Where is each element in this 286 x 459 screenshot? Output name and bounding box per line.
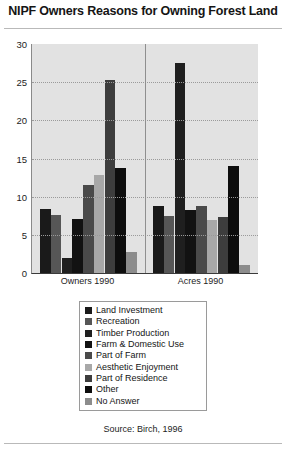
bar (153, 206, 164, 273)
legend-item[interactable]: Other (85, 384, 202, 395)
y-axis-tick-label: 5 (0, 229, 27, 240)
bar (228, 166, 239, 273)
legend-swatch-icon (85, 352, 92, 359)
legend-swatch-icon (85, 398, 92, 405)
y-axis-tick-label: 20 (0, 115, 27, 126)
bar (40, 209, 51, 273)
x-axis-category-label: Acres 1990 (178, 276, 224, 286)
legend-swatch-icon (85, 307, 92, 314)
bar (207, 220, 218, 273)
legend-item[interactable]: Part of Farm (85, 350, 202, 361)
bar (72, 219, 83, 273)
group-divider (145, 44, 146, 273)
plot-area (31, 44, 258, 274)
legend-item[interactable]: Part of Residence (85, 373, 202, 384)
source-note: Source: Birch, 1996 (0, 424, 286, 434)
legend-item[interactable]: Timber Production (85, 328, 202, 339)
legend-swatch-icon (85, 375, 92, 382)
y-axis-labels: 051015202530 (0, 44, 27, 273)
legend-item-label: Part of Farm (96, 351, 146, 360)
legend-item-label: Aesthetic Enjoyment (96, 363, 178, 372)
x-axis-labels: Owners 1990Acres 1990 (31, 276, 257, 290)
legend-swatch-icon (85, 330, 92, 337)
bar (175, 63, 186, 273)
divider-top (4, 28, 282, 29)
legend-item-label: No Answer (96, 397, 140, 406)
legend-item[interactable]: Farm & Domestic Use (85, 339, 202, 350)
chart-legend: Land InvestmentRecreationTimber Producti… (79, 301, 207, 411)
bar (164, 216, 175, 273)
legend-item-label: Recreation (96, 317, 140, 326)
bar (115, 168, 126, 273)
bar (94, 175, 105, 273)
legend-item-label: Land Investment (96, 306, 163, 315)
y-axis-tick-label: 0 (0, 268, 27, 279)
legend-swatch-icon (85, 364, 92, 371)
bar (239, 265, 250, 273)
y-axis-tick-label: 30 (0, 39, 27, 50)
y-axis-tick-label: 15 (0, 153, 27, 164)
bar (185, 210, 196, 273)
page-title: NIPF Owners Reasons for Owning Forest La… (0, 4, 286, 18)
bar (83, 185, 94, 273)
chart-figure: 051015202530 Owners 1990Acres 1990 (0, 38, 286, 288)
divider-bottom (4, 443, 282, 444)
bar (218, 217, 229, 273)
legend-swatch-icon (85, 341, 92, 348)
bar (126, 252, 137, 273)
bar (105, 80, 116, 273)
legend-swatch-icon (85, 386, 92, 393)
legend-item[interactable]: No Answer (85, 395, 202, 406)
bar (196, 206, 207, 273)
legend-item-label: Other (96, 385, 119, 394)
legend-swatch-icon (85, 318, 92, 325)
legend-item[interactable]: Aesthetic Enjoyment (85, 361, 202, 372)
legend-item-label: Farm & Domestic Use (96, 340, 184, 349)
legend-item-label: Part of Residence (96, 374, 168, 383)
bar (51, 215, 62, 273)
legend-item-label: Timber Production (96, 329, 169, 338)
x-axis-category-label: Owners 1990 (61, 276, 115, 286)
legend-item[interactable]: Land Investment (85, 305, 202, 316)
y-axis-tick-label: 25 (0, 77, 27, 88)
legend-item[interactable]: Recreation (85, 316, 202, 327)
bar (62, 258, 73, 273)
y-axis-tick-label: 10 (0, 191, 27, 202)
